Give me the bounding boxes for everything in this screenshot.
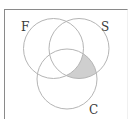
venn-diagram: F S C	[0, 0, 132, 119]
label-c: C	[89, 103, 98, 117]
shaded-region-s-and-c-not-f	[0, 0, 132, 119]
label-f: F	[21, 20, 29, 34]
set-f-circle	[24, 19, 84, 79]
label-s: S	[101, 20, 109, 34]
